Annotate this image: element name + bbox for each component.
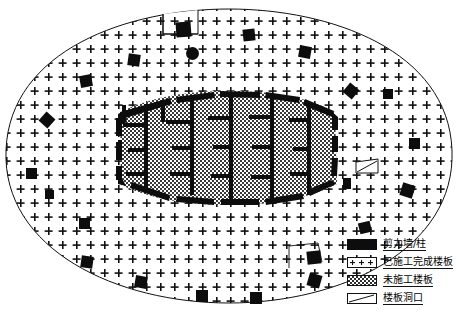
slab-opening-swatch-icon (347, 293, 377, 304)
floor-plan-drawing: 剪力墙/柱 已施工完成楼板 未施工楼板 (0, 0, 459, 312)
unbuilt-slab-swatch-icon (347, 275, 377, 286)
legend-row-completed-slab: 已施工完成楼板 (347, 254, 459, 270)
legend-label-shear-wall: 剪力墙/柱 (383, 238, 426, 251)
perimeter-column (45, 190, 54, 199)
perimeter-column (242, 28, 255, 41)
perimeter-column (383, 89, 393, 99)
perimeter-column (409, 138, 420, 149)
completed-slab-pattern-icon (348, 258, 376, 267)
perimeter-column (127, 53, 141, 67)
perimeter-column (298, 45, 312, 59)
slab-opening-marker (356, 159, 378, 173)
perimeter-column (79, 218, 90, 229)
perimeter-column (26, 168, 37, 179)
legend-row-unbuilt-slab: 未施工楼板 (347, 272, 459, 288)
legend-row-slab-opening: 楼板洞口 (347, 290, 459, 306)
shear-wall-swatch-icon (347, 239, 377, 250)
perimeter-column (306, 250, 321, 264)
legend-label-completed-slab: 已施工完成楼板 (383, 256, 453, 269)
unbuilt-slab-pattern-icon (348, 276, 376, 285)
legend-label-slab-opening: 楼板洞口 (383, 292, 423, 305)
perimeter-column (134, 275, 148, 289)
perimeter-column (186, 47, 199, 60)
perimeter-column (175, 21, 191, 37)
perimeter-column (343, 178, 351, 189)
legend-row-shear-wall: 剪力墙/柱 (347, 236, 459, 252)
completed-slab-swatch-icon (347, 257, 377, 268)
perimeter-column (79, 74, 93, 88)
perimeter-column (196, 290, 208, 302)
legend: 剪力墙/柱 已施工完成楼板 未施工楼板 (347, 236, 459, 306)
perimeter-column (80, 255, 94, 269)
slab-opening-shape-icon (348, 294, 376, 303)
perimeter-column (250, 292, 262, 304)
legend-label-unbuilt-slab: 未施工楼板 (383, 274, 433, 287)
